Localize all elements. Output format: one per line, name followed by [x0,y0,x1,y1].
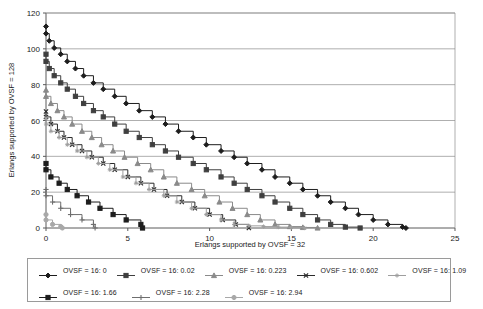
legend-item[interactable]: OVSF = 16: 1.66 [38,288,117,297]
legend-swatch-star [387,271,407,280]
data-point-triangle [122,155,127,160]
data-point-square [52,74,56,78]
legend-item[interactable]: OVSF = 16: 0.02 [116,266,195,275]
data-point-star [57,135,61,139]
data-point-diamond [112,94,117,99]
data-point-square [329,222,333,226]
data-point-triangle [111,148,116,153]
data-point-star [65,143,69,147]
series-7 [44,212,65,230]
series-1 [44,52,362,230]
data-point-star [261,224,265,228]
data-point-triangle [61,114,66,119]
data-point-square [57,181,61,185]
x-tick-label: 0 [44,234,49,243]
legend-marker-icon [131,288,151,297]
data-point-diamond [232,155,237,160]
y-tick-label: 80 [31,81,40,90]
data-point-square [232,181,236,185]
data-point-diamond [65,59,70,64]
data-point-triangle [211,272,216,277]
series-5 [44,161,145,230]
data-point-diamond [371,217,376,222]
legend-marker-icon [38,288,58,297]
series-line [46,26,406,228]
data-point-star [147,187,151,191]
legend-item[interactable]: OVSF = 16: 0.602 [296,266,379,275]
data-series-group [43,24,408,231]
legend-marker-icon [38,266,58,275]
data-point-square [101,115,105,119]
data-point-diamond [385,222,390,227]
data-point-triangle [79,129,84,134]
x-tick-label: 5 [126,234,131,243]
data-point-square [245,187,249,191]
data-point-square [288,206,292,210]
data-point-triangle [44,87,49,92]
data-point-square [301,212,305,216]
data-point-star [96,161,100,165]
y-tick-label: 100 [27,45,41,54]
data-point-diamond [343,206,348,211]
data-point-triangle [70,121,75,126]
data-point-square [140,226,144,230]
legend-swatch-plus [131,293,151,302]
legend-marker-icon [204,266,224,275]
data-point-square [46,295,50,299]
y-tick-label: 120 [27,9,41,18]
data-point-triangle [55,108,60,113]
data-point-triangle [217,199,222,204]
legend-label: OVSF = 16: 0.602 [321,267,379,274]
legend-label: OVSF = 16: 0.223 [229,267,287,274]
legend-marker-icon [224,288,244,297]
y-tick-label: 0 [36,224,41,233]
x-tick-label: 20 [369,234,378,243]
data-point-diamond [124,101,129,106]
data-point-square [124,129,128,133]
data-point-diamond [46,273,51,278]
data-point-square [137,135,141,139]
legend-item[interactable]: OVSF = 16: 2.94 [224,288,303,297]
data-point-star [44,122,48,126]
data-point-square [124,273,128,277]
data-point-star [75,149,79,153]
data-point-square [219,175,223,179]
y-tick-labels: 020406080100120 [27,9,46,233]
legend-swatch-circle [224,293,244,302]
legend-swatch-square [38,293,58,302]
legend-item[interactable]: OVSF = 16: 0 [38,266,107,275]
data-point-square [44,59,48,63]
data-point-star [162,194,166,198]
series-0 [44,24,409,231]
plot-area: 020406080100120 0510152025 Erlangs suppo… [0,0,483,252]
data-point-square [124,218,128,222]
data-point-star [49,129,53,133]
data-point-square [44,52,48,56]
data-point-plus [50,199,55,204]
data-point-diamond [191,135,196,140]
data-point-plus [43,193,48,198]
data-point-star [175,200,179,204]
data-point-triangle [230,206,235,211]
data-point-diamond [328,200,333,205]
data-point-diamond [259,167,264,172]
data-point-triangle [89,135,94,140]
data-point-star [219,218,223,222]
data-point-diamond [101,87,106,92]
data-point-square [91,109,95,113]
legend-item[interactable]: OVSF = 16: 1.09 [387,266,466,275]
legend-item[interactable]: OVSF = 16: 0.223 [204,266,287,275]
data-point-square [73,94,77,98]
legend-row-first: OVSF = 16: 0OVSF = 16: 0.02OVSF = 16: 0.… [28,259,450,281]
data-point-square [65,187,69,191]
data-point-plus [43,187,48,192]
data-point-square [111,212,115,216]
legend-item[interactable]: OVSF = 16: 2.28 [131,288,210,297]
data-point-diamond [73,66,78,71]
data-point-triangle [189,187,194,192]
data-point-square [163,149,167,153]
chart-svg: 020406080100120 0510152025 Erlangs suppo… [0,0,483,252]
legend-label: OVSF = 16: 0.02 [141,267,195,274]
data-point-diamond [163,122,168,127]
data-point-square [191,161,195,165]
